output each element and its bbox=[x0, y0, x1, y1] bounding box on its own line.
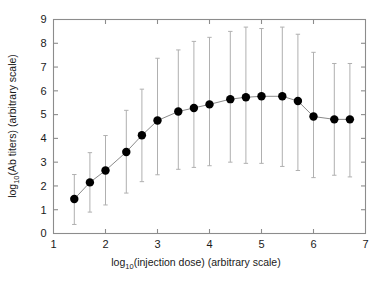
y-axis-title-rest: (Ab titers) (arbitrary scale) bbox=[6, 54, 18, 175]
data-point bbox=[294, 97, 302, 105]
x-tick-label: 1 bbox=[50, 238, 56, 250]
chart-figure: 1234567 0123456789 log10(injection dose)… bbox=[0, 0, 391, 283]
y-tick-label: 3 bbox=[40, 156, 46, 168]
data-point bbox=[309, 112, 317, 120]
y-tick-label: 4 bbox=[40, 132, 46, 144]
y-tick-label: 9 bbox=[40, 13, 46, 25]
data-point bbox=[174, 107, 182, 115]
data-point bbox=[190, 104, 198, 112]
data-point bbox=[122, 148, 130, 156]
data-point bbox=[138, 131, 146, 139]
y-tick-label: 1 bbox=[40, 204, 46, 216]
x-axis-title-main: log bbox=[111, 256, 125, 268]
y-axis-title-main: log bbox=[6, 184, 18, 198]
y-tick-label: 6 bbox=[40, 85, 46, 97]
y-tick-label: 5 bbox=[40, 108, 46, 120]
y-axis-title-subscript: 10 bbox=[12, 176, 21, 184]
x-axis-title-subscript: 10 bbox=[125, 262, 133, 271]
y-tick-label: 2 bbox=[40, 180, 46, 192]
y-tick-label: 7 bbox=[40, 61, 46, 73]
data-point bbox=[330, 115, 338, 123]
data-point bbox=[86, 178, 94, 186]
x-tick-label: 4 bbox=[206, 238, 212, 250]
data-point bbox=[346, 115, 354, 123]
data-point bbox=[278, 92, 286, 100]
data-point bbox=[101, 166, 109, 174]
y-tick-label: 0 bbox=[40, 227, 46, 239]
y-tick-label: 8 bbox=[40, 37, 46, 49]
data-point bbox=[153, 116, 161, 124]
x-tick-label: 3 bbox=[154, 238, 160, 250]
x-axis-title-rest: (injection dose) (arbitrary scale) bbox=[134, 256, 281, 268]
data-point bbox=[226, 95, 234, 103]
data-point bbox=[257, 92, 265, 100]
data-point bbox=[242, 93, 250, 101]
x-tick-label: 7 bbox=[362, 238, 368, 250]
x-tick-label: 6 bbox=[310, 238, 316, 250]
dose-response-plot: 1234567 0123456789 log10(injection dose)… bbox=[0, 0, 391, 283]
figure-background bbox=[0, 0, 391, 283]
data-point bbox=[205, 100, 213, 108]
x-tick-label: 2 bbox=[102, 238, 108, 250]
data-point bbox=[70, 195, 78, 203]
x-tick-label: 5 bbox=[258, 238, 264, 250]
